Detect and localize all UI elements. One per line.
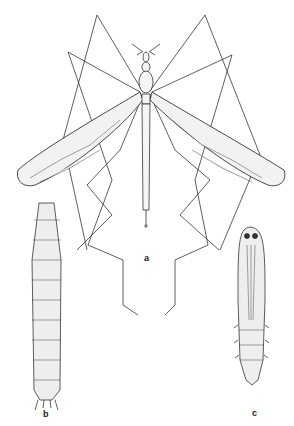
label-adult: a xyxy=(144,253,149,263)
larva-drawing xyxy=(32,203,61,410)
label-pupa: c xyxy=(252,408,257,418)
adult-body xyxy=(132,44,160,227)
label-larva: b xyxy=(43,409,49,419)
crane-fly-drawing xyxy=(0,0,294,426)
adult-wings xyxy=(17,92,284,186)
pupa-drawing xyxy=(234,227,269,385)
illustration-canvas: a b c xyxy=(0,0,294,426)
